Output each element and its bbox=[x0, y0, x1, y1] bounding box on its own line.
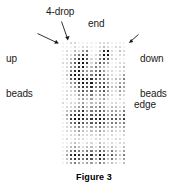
label-edge: edge bbox=[134, 99, 156, 111]
label-4-drop: 4-drop bbox=[46, 6, 74, 18]
arrow-4drop-icon bbox=[62, 22, 70, 41]
bead-cell bbox=[89, 161, 93, 165]
arrow-down-beads-icon bbox=[129, 35, 139, 43]
label-up-beads: up beads bbox=[6, 30, 33, 122]
label-end: end bbox=[88, 18, 104, 30]
label-up-beads-line2: beads bbox=[6, 88, 33, 100]
bead-cell bbox=[122, 161, 126, 165]
bead-cell bbox=[94, 161, 98, 165]
arrow-up-beads-icon bbox=[38, 34, 59, 44]
label-up-beads-line1: up bbox=[6, 53, 33, 65]
label-down-beads-line2: beads bbox=[140, 88, 167, 100]
bead-grid bbox=[61, 41, 126, 165]
label-down-beads-line1: down bbox=[140, 53, 167, 65]
figure-container: 4-drop end up beads down beads edge Figu… bbox=[0, 0, 188, 189]
figure-caption: Figure 3 bbox=[0, 172, 188, 182]
